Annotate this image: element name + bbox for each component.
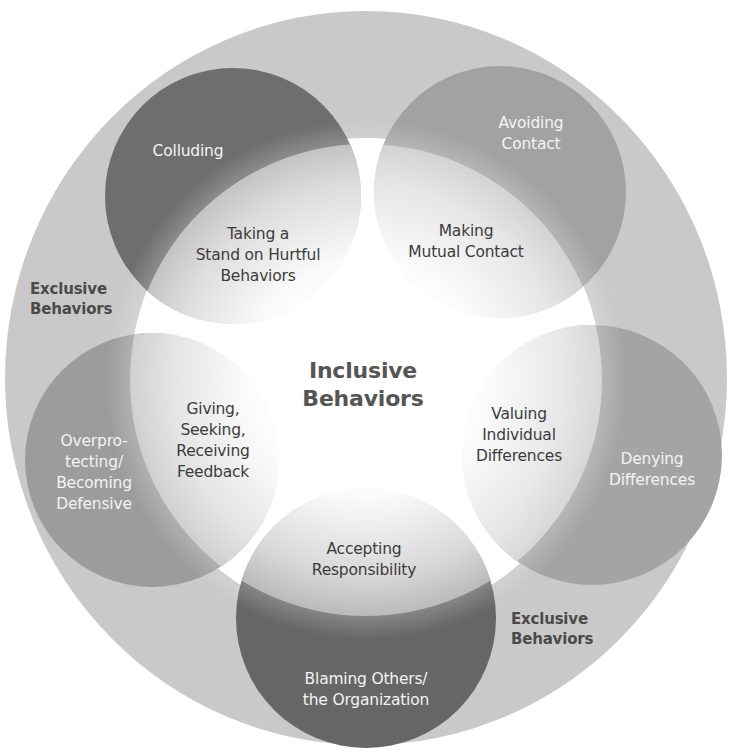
- label-denying-differences: Denying Differences: [609, 449, 695, 491]
- label-blaming-others: Blaming Others/ the Organization: [303, 669, 429, 711]
- label-exclusive-behaviors-left: Exclusive Behaviors: [30, 279, 112, 319]
- label-colluding: Colluding: [153, 141, 224, 162]
- label-valuing-individual-differences: Valuing Individual Differences: [476, 404, 562, 467]
- label-avoiding-contact: Avoiding Contact: [499, 113, 564, 155]
- label-overprotecting: Overpro- tecting/ Becoming Defensive: [56, 431, 132, 515]
- label-accepting-responsibility: Accepting Responsibility: [312, 539, 416, 581]
- label-exclusive-behaviors-right: Exclusive Behaviors: [511, 609, 593, 649]
- label-making-mutual-contact: Making Mutual Contact: [408, 221, 523, 263]
- label-taking-a-stand: Taking a Stand on Hurtful Behaviors: [196, 224, 321, 287]
- label-inclusive-behaviors: Inclusive Behaviors: [302, 357, 423, 413]
- label-giving-seeking-feedback: Giving, Seeking, Receiving Feedback: [176, 399, 249, 483]
